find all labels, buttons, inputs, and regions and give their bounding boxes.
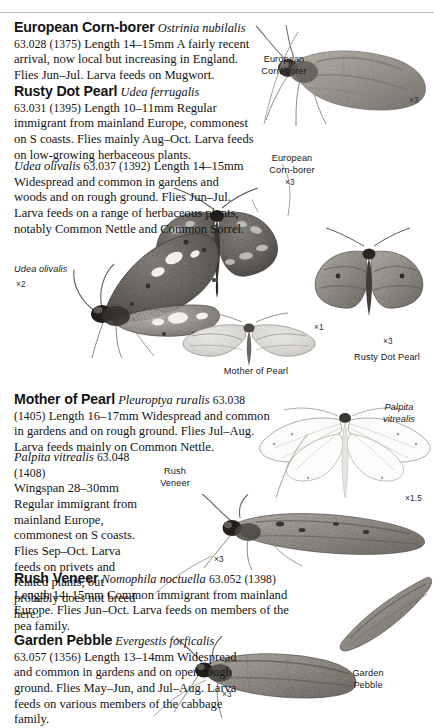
caption-european-corn-borer-2: European Corn-borer <box>258 153 326 177</box>
illustration-rusty-dot-pearl <box>306 226 434 336</box>
magnification-european-corn-borer-2: ×3 <box>285 178 295 187</box>
species-scientific-name: Pleuroptya ruralis <box>118 393 209 407</box>
running-head-title: GRASS MOTHS AND MICRO-MOTHS <box>35 0 426 3</box>
caption-rush-veneer: Rush Veneer <box>152 466 198 490</box>
illustration-garden-pebble-upper <box>322 572 434 656</box>
caption-udea-olivalis: Udea olivalis <box>14 264 98 276</box>
species-scientific-name: Nomophila noctuella <box>101 572 205 586</box>
entry-european-corn-borer: European Corn-borer Ostrinia nubilalis 6… <box>14 19 258 84</box>
caption-european-corn-borer-1: European Corn-borer <box>252 54 316 78</box>
magnification-rush-veneer: ×3 <box>214 555 224 564</box>
entry-rusty-dot-pearl: Rusty Dot Pearl Udea ferrugalis 63.031 (… <box>14 83 258 163</box>
species-code: 63.037 (1392) <box>84 160 151 173</box>
species-common-name: Rusty Dot Pearl <box>14 83 117 99</box>
species-scientific-name: Ostrinia nubilalis <box>158 21 246 35</box>
caption-mother-of-pearl: Mother of Pearl <box>211 366 301 378</box>
species-code: 63.031 (1395) <box>14 102 81 115</box>
header-rule <box>0 12 434 13</box>
species-code: 63.057 (1356) <box>14 651 81 664</box>
species-code: 63.028 (1375) <box>14 38 81 51</box>
illustration-rush-veneer <box>196 494 434 570</box>
species-common-name: Garden Pebble <box>14 632 112 648</box>
entry-rush-veneer: Rush Veneer Nomophila noctuella 63.052 (… <box>14 570 302 635</box>
entry-udea-olivalis: Udea olivalis 63.037 (1392) Length 14–15… <box>14 159 246 237</box>
caption-garden-pebble: Garden Pebble <box>342 668 394 692</box>
caption-palpita-vitrealis: Palpita vitrealis <box>370 402 428 426</box>
magnification-palpita-vitrealis: ×1.5 <box>405 494 422 503</box>
species-code: 63.052 (1398) <box>209 573 276 586</box>
magnification-mother-of-pearl: ×1 <box>314 323 324 332</box>
entry-garden-pebble: Garden Pebble Evergestis forficalis 63.0… <box>14 632 238 728</box>
page-number: 34 <box>8 0 21 2</box>
running-head: 34 GRASS MOTHS AND MICRO-MOTHS <box>0 0 434 12</box>
species-common-name: Mother of Pearl <box>14 391 115 407</box>
illustration-mother-of-pearl <box>176 312 322 370</box>
magnification-rusty-dot-pearl: ×3 <box>383 337 393 346</box>
illustration-udea-olivalis <box>58 224 226 360</box>
species-description: Length 14–15mm Common immigrant from mai… <box>14 588 289 633</box>
species-description: Length 16–17mm Widespread and common in … <box>14 409 270 454</box>
species-scientific-name: Evergestis forficalis <box>115 634 214 648</box>
species-scientific-name: Udea olivalis <box>14 159 80 173</box>
species-scientific-name: Udea ferrugalis <box>121 85 200 99</box>
species-common-name: Rush Veneer <box>14 570 98 586</box>
magnification-udea-olivalis: ×2 <box>16 280 26 289</box>
caption-rusty-dot-pearl: Rusty Dot Pearl <box>344 352 430 364</box>
magnification-european-corn-borer-1: ×3 <box>409 96 419 105</box>
species-common-name: European Corn-borer <box>14 19 155 35</box>
entry-mother-of-pearl: Mother of Pearl Pleuroptya ruralis 63.03… <box>14 391 278 456</box>
species-scientific-name: Palpita vitrealis <box>14 450 94 464</box>
